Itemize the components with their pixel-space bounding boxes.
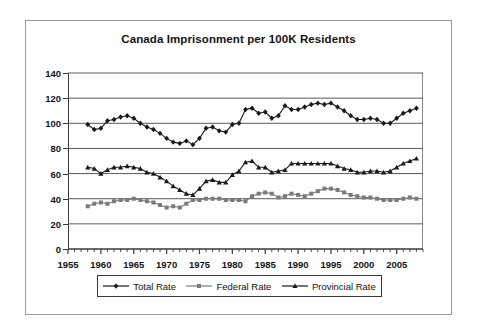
data-point-marker xyxy=(414,156,419,161)
y-axis-tick-mark xyxy=(63,249,68,250)
data-point-marker xyxy=(191,198,195,202)
x-axis-tick-label: 1970 xyxy=(156,259,177,270)
data-point-marker xyxy=(112,117,117,122)
legend-item-label: Provincial Rate xyxy=(312,281,376,292)
data-point-marker xyxy=(368,116,373,121)
data-point-marker xyxy=(316,189,320,193)
chart-title: Canada Imprisonment per 100K Residents xyxy=(26,33,451,45)
data-point-marker xyxy=(138,198,142,202)
data-point-marker xyxy=(114,283,119,288)
data-point-marker xyxy=(210,124,215,129)
data-point-marker xyxy=(263,190,267,194)
data-point-marker xyxy=(237,198,241,202)
y-axis-tick-label: 80 xyxy=(50,143,61,154)
data-point-marker xyxy=(381,121,386,126)
data-point-marker xyxy=(322,102,327,107)
data-point-marker xyxy=(211,197,215,201)
data-point-marker xyxy=(125,163,130,168)
y-axis-tick-mark xyxy=(63,73,68,74)
data-series-layer xyxy=(68,73,423,249)
legend-item-provincial-rate[interactable]: Provincial Rate xyxy=(282,281,376,292)
data-point-marker xyxy=(217,197,221,201)
data-point-marker xyxy=(388,198,392,202)
data-point-marker xyxy=(151,200,155,204)
chart-legend: Total RateFederal RateProvincial Rate xyxy=(97,275,382,297)
data-point-marker xyxy=(283,194,287,198)
data-point-marker xyxy=(177,141,182,146)
data-point-marker xyxy=(361,117,366,122)
y-axis-tick-label: 40 xyxy=(50,193,61,204)
x-axis-tick-label: 1980 xyxy=(222,259,243,270)
y-axis-tick-mark xyxy=(63,98,68,99)
x-axis-tick-label: 2005 xyxy=(386,259,407,270)
y-axis-tick-mark xyxy=(63,123,68,124)
data-point-marker xyxy=(388,168,393,173)
data-point-marker xyxy=(414,106,419,111)
data-point-marker xyxy=(158,203,162,207)
data-point-marker xyxy=(92,202,96,206)
data-point-marker xyxy=(250,194,254,198)
data-point-marker xyxy=(335,104,340,109)
x-axis-tick-label: 1990 xyxy=(288,259,309,270)
data-point-marker xyxy=(257,192,261,196)
data-point-marker xyxy=(204,197,208,201)
diamond-marker-icon xyxy=(103,281,129,291)
data-point-marker xyxy=(355,117,360,122)
data-point-marker xyxy=(401,197,405,201)
data-point-marker xyxy=(407,108,412,113)
y-axis-tick-mark xyxy=(63,224,68,225)
data-point-marker xyxy=(336,188,340,192)
y-axis-tick-mark xyxy=(63,199,68,200)
x-axis-tick-label: 1975 xyxy=(189,259,210,270)
data-point-marker xyxy=(125,198,129,202)
data-point-marker xyxy=(177,187,182,192)
data-point-marker xyxy=(309,102,314,107)
data-point-marker xyxy=(157,175,162,180)
data-point-marker xyxy=(395,198,399,202)
legend-item-total-rate[interactable]: Total Rate xyxy=(103,281,176,292)
data-point-marker xyxy=(362,195,366,199)
y-axis-tick-label: 0 xyxy=(56,244,61,255)
data-point-marker xyxy=(382,198,386,202)
data-point-marker xyxy=(178,206,182,210)
data-point-marker xyxy=(112,199,116,203)
data-point-marker xyxy=(355,194,359,198)
data-point-marker xyxy=(276,195,280,199)
data-point-marker xyxy=(118,114,123,119)
data-point-marker xyxy=(144,124,149,129)
x-axis-tick-label: 1955 xyxy=(57,259,78,270)
legend-item-label: Total Rate xyxy=(133,281,176,292)
data-point-marker xyxy=(243,107,248,112)
y-axis-tick-mark xyxy=(63,148,68,149)
data-point-marker xyxy=(414,197,418,201)
legend-item-federal-rate[interactable]: Federal Rate xyxy=(186,281,271,292)
data-point-marker xyxy=(217,128,222,133)
data-point-marker xyxy=(171,139,176,144)
data-point-marker xyxy=(144,170,149,175)
data-point-marker xyxy=(289,107,294,112)
data-point-marker xyxy=(224,198,228,202)
x-axis-tick-label: 1960 xyxy=(90,259,111,270)
data-point-marker xyxy=(342,190,346,194)
data-point-marker xyxy=(125,113,130,118)
square-marker-icon xyxy=(186,281,212,291)
data-point-marker xyxy=(290,192,294,196)
y-axis-tick-label: 20 xyxy=(50,218,61,229)
x-axis-tick-label: 1995 xyxy=(320,259,341,270)
data-point-marker xyxy=(171,204,175,208)
triangle-marker-icon xyxy=(282,281,308,291)
data-point-marker xyxy=(184,138,189,143)
data-point-marker xyxy=(230,198,234,202)
data-point-marker xyxy=(315,100,320,105)
data-point-marker xyxy=(322,187,326,191)
data-point-marker xyxy=(375,197,379,201)
data-point-marker xyxy=(302,104,307,109)
x-axis-tick-label: 2000 xyxy=(353,259,374,270)
data-point-marker xyxy=(85,165,90,170)
x-axis-tick-label: 1985 xyxy=(255,259,276,270)
y-axis-tick-label: 60 xyxy=(50,168,61,179)
data-point-marker xyxy=(230,172,235,177)
data-point-marker xyxy=(368,195,372,199)
data-point-marker xyxy=(184,202,188,206)
y-axis-tick-label: 140 xyxy=(45,68,61,79)
